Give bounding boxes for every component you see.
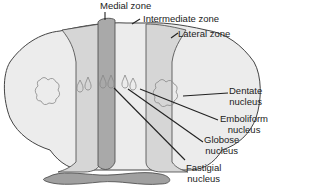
emboliform-nucleus-label: Emboliform nucleus [220,113,268,135]
intermediate-zone-label: Intermediate zone [143,13,219,24]
lateral-zone-label: Lateral zone [178,28,230,39]
medial-zone-shape [98,18,115,169]
dentate-nucleus-label: Dentate nucleus [229,85,262,107]
globose-nucleus-label: Globose nucleus [204,134,239,156]
fastigial-nucleus-label: Fastigial nucleus [186,162,221,184]
peduncle-shape [44,173,170,185]
medial-zone-label: Medial zone [100,0,151,11]
